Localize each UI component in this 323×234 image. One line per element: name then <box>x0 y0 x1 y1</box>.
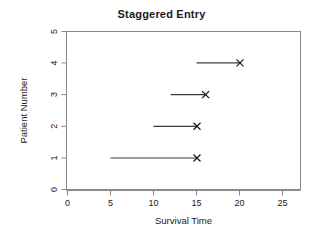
patient-1-segment <box>111 155 201 162</box>
x-tick-label-20: 20 <box>234 198 244 208</box>
x-axis-ticks <box>68 191 283 196</box>
y-tick-label-2: 2 <box>49 124 59 129</box>
patient-3-segment <box>171 91 209 98</box>
y-tick-label-0: 0 <box>49 187 59 192</box>
x-tick-label-15: 15 <box>191 198 201 208</box>
y-tick-label-3: 3 <box>49 92 59 97</box>
y-tick-label-5: 5 <box>49 29 59 34</box>
x-tick-label-25: 25 <box>277 198 287 208</box>
plot-area: 0 5 10 15 20 25 0 1 2 3 4 5 Survival Tim… <box>0 0 323 234</box>
y-tick-label-1: 1 <box>49 155 59 160</box>
patient-4-segment <box>197 59 244 66</box>
y-tick-label-4: 4 <box>49 60 59 65</box>
x-tick-label-0: 0 <box>65 198 70 208</box>
x-axis-title: Survival Time <box>155 215 212 226</box>
y-axis-tick-labels: 0 1 2 3 4 5 <box>49 29 59 192</box>
chart-figure: Staggered Entry 0 5 10 15 20 25 <box>0 0 323 234</box>
y-axis-title: Patient Number <box>18 77 29 143</box>
x-axis-tick-labels: 0 5 10 15 20 25 <box>65 198 288 208</box>
plot-frame <box>67 32 301 190</box>
x-tick-label-5: 5 <box>108 198 113 208</box>
patient-2-segment <box>154 123 201 130</box>
y-axis-ticks <box>62 32 67 190</box>
x-tick-label-10: 10 <box>148 198 158 208</box>
data-series-group <box>111 59 244 161</box>
